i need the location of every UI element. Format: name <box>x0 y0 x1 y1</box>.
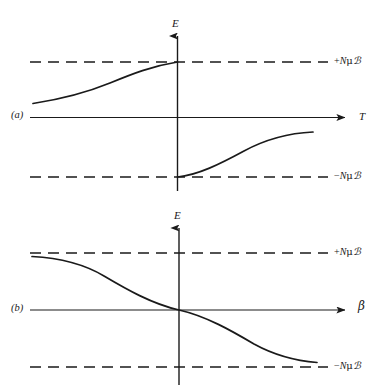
lower-asymptote-label-a: −Nμℬ <box>334 171 361 181</box>
lower-asymptote-B-b: ℬ <box>353 360 361 371</box>
upper-asymptote-label-a: +Nμℬ <box>334 56 361 66</box>
curve-a-positive-branch <box>178 132 314 177</box>
y-axis-label-a: E <box>172 18 179 29</box>
y-axis-label-b: E <box>174 210 181 221</box>
x-axis-label-b: β <box>358 300 365 312</box>
panel-a: (a) E T +Nμℬ −Nμℬ <box>0 0 387 196</box>
upper-asymptote-label-b: +Nμℬ <box>334 247 361 257</box>
x-axis-label-a: T <box>359 111 365 122</box>
lower-asymptote-label-b: −Nμℬ <box>334 361 361 371</box>
panel-b: (b) E β +Nμℬ −Nμℬ <box>0 196 387 392</box>
panel-a-plot <box>0 0 387 196</box>
panel-b-plot <box>0 196 387 392</box>
upper-asymptote-B-a: ℬ <box>353 55 361 66</box>
lower-asymptote-B-a: ℬ <box>353 170 361 181</box>
curve-a-negative-branch <box>33 62 178 104</box>
paramagnet-energy-figure: (a) E T +Nμℬ −Nμℬ <box>0 0 387 392</box>
panel-label-b: (b) <box>11 303 23 314</box>
upper-asymptote-B-b: ℬ <box>353 246 361 257</box>
panel-label-a: (a) <box>11 110 23 121</box>
